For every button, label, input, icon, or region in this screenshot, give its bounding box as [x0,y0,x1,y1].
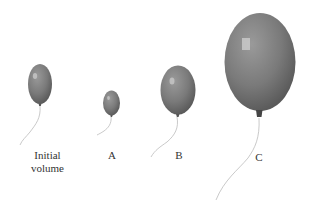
balloons-diagram [0,0,311,211]
balloon-c [216,13,296,200]
label-b: B [169,149,189,162]
label-c: C [249,151,269,164]
label-initial-volume: Initial volume [20,149,75,175]
balloon-a [97,91,120,136]
label-initial-line1: Initial [34,149,60,161]
label-initial-line2: volume [31,162,64,174]
balloon-initial [20,64,52,145]
label-a: A [102,149,122,162]
balloon-b [151,66,196,158]
